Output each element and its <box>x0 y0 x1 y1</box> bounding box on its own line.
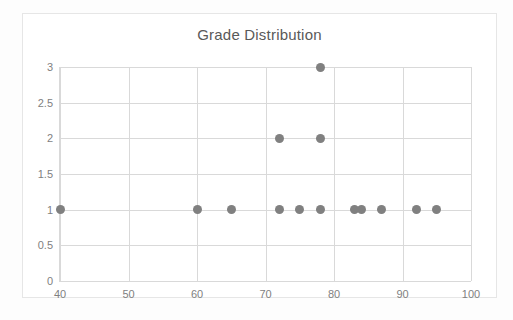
data-point[interactable] <box>295 205 304 214</box>
gridline-vertical <box>129 67 130 281</box>
data-point[interactable] <box>193 205 202 214</box>
y-axis-tick-label: 2 <box>47 132 53 144</box>
gridline-vertical <box>334 67 335 281</box>
x-axis-tick-label: 40 <box>54 288 66 300</box>
data-point[interactable] <box>275 205 284 214</box>
y-axis-tick-label: 3 <box>47 61 53 73</box>
data-point[interactable] <box>227 205 236 214</box>
gridline-vertical <box>266 67 267 281</box>
x-axis-tick-label: 90 <box>396 288 408 300</box>
x-axis-tick-label: 70 <box>259 288 271 300</box>
data-point[interactable] <box>275 134 284 143</box>
gridline-vertical <box>197 67 198 281</box>
y-axis-tick-label: 1.5 <box>38 168 53 180</box>
y-axis-tick-label: 2.5 <box>38 97 53 109</box>
chart-title: Grade Distribution <box>23 26 496 43</box>
data-point[interactable] <box>357 205 366 214</box>
gridline-horizontal <box>60 281 471 282</box>
x-axis-tick-label: 100 <box>462 288 480 300</box>
data-point[interactable] <box>316 134 325 143</box>
chart-container: Grade Distribution 00.511.522.53 4050607… <box>22 13 497 298</box>
x-axis-tick-label: 50 <box>122 288 134 300</box>
data-point[interactable] <box>377 205 386 214</box>
data-point[interactable] <box>316 205 325 214</box>
plot-area: 00.511.522.53 405060708090100 <box>59 67 471 282</box>
gridline-vertical <box>403 67 404 281</box>
y-axis-tick-label: 0 <box>47 275 53 287</box>
data-point[interactable] <box>432 205 441 214</box>
y-axis-tick-label: 1 <box>47 204 53 216</box>
x-axis-tick-label: 80 <box>328 288 340 300</box>
x-axis-tick-label: 60 <box>191 288 203 300</box>
y-axis-tick-label: 0.5 <box>38 239 53 251</box>
data-point[interactable] <box>412 205 421 214</box>
gridline-vertical <box>471 67 472 281</box>
data-point[interactable] <box>316 63 325 72</box>
data-point[interactable] <box>56 205 65 214</box>
gridline-vertical <box>60 67 61 281</box>
